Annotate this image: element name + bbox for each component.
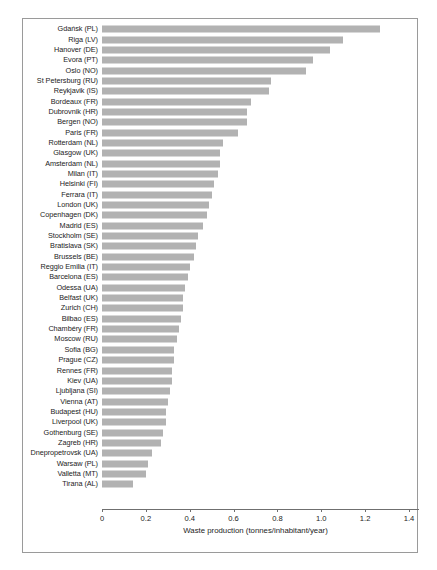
- bar-track: [102, 469, 419, 479]
- bar-row: Evora (PT): [23, 55, 419, 65]
- bar-track: [102, 458, 419, 468]
- category-label: Zagreb (HR): [23, 439, 102, 447]
- category-label: Madrid (ES): [23, 222, 102, 230]
- bar-track: [102, 365, 419, 375]
- bar-row: Dnepropetrovsk (UA): [23, 448, 419, 458]
- bar-track: [102, 76, 419, 86]
- bar-track: [102, 427, 419, 437]
- bar: [102, 46, 330, 53]
- bar: [102, 357, 174, 364]
- x-tick-label: 0.2: [141, 514, 152, 523]
- bar-row: Liverpool (UK): [23, 417, 419, 427]
- bar-track: [102, 200, 419, 210]
- x-tick-label: 0.6: [228, 514, 239, 523]
- category-label: Gdańsk (PL): [23, 25, 102, 33]
- bar: [102, 98, 251, 105]
- x-tick-mark: [277, 509, 278, 512]
- bar: [102, 439, 161, 446]
- figure-container: Gdańsk (PL)Riga (LV)Hanover (DE)Evora (P…: [0, 0, 437, 570]
- bar-row: Zagreb (HR): [23, 438, 419, 448]
- bar-row: Amsterdam (NL): [23, 158, 419, 168]
- bar-track: [102, 45, 419, 55]
- category-label: Tirana (AL): [23, 480, 102, 488]
- bar: [102, 377, 172, 384]
- bar-track: [102, 479, 419, 489]
- category-label: Copenhagen (DK): [23, 211, 102, 219]
- category-label: London (UK): [23, 201, 102, 209]
- category-label: Bergen (NO): [23, 118, 102, 126]
- category-label: Stockholm (SE): [23, 232, 102, 240]
- bar-row: Reggio Emilia (IT): [23, 262, 419, 272]
- bar-row: Belfast (UK): [23, 293, 419, 303]
- x-tick-label: 1.2: [360, 514, 371, 523]
- bar: [102, 336, 177, 343]
- bar-track: [102, 127, 419, 137]
- bar-track: [102, 345, 419, 355]
- bar-row: Hanover (DE): [23, 45, 419, 55]
- x-tick-mark: [365, 509, 366, 512]
- bar: [102, 212, 207, 219]
- x-axis-line: [102, 509, 419, 510]
- category-label: Rotterdam (NL): [23, 139, 102, 147]
- bar: [102, 295, 183, 302]
- bar: [102, 67, 306, 74]
- bar-row: Bordeaux (FR): [23, 96, 419, 106]
- bar: [102, 243, 196, 250]
- x-axis-title: Waste production (tonnes/inhabitant/year…: [102, 526, 409, 535]
- bar-row: Zurich (CH): [23, 303, 419, 313]
- bar-row: Helsinki (FI): [23, 179, 419, 189]
- bar-track: [102, 55, 419, 65]
- bar-track: [102, 417, 419, 427]
- category-label: Bratislava (SK): [23, 242, 102, 250]
- category-label: Oslo (NO): [23, 67, 102, 75]
- bar: [102, 129, 238, 136]
- bar-row: Bratislava (SK): [23, 241, 419, 251]
- bar: [102, 429, 163, 436]
- x-tick-mark: [409, 509, 410, 512]
- bar-row: London (UK): [23, 200, 419, 210]
- category-label: Evora (PT): [23, 56, 102, 64]
- category-label: Ljubljana (SI): [23, 387, 102, 395]
- category-label: Chambéry (FR): [23, 325, 102, 333]
- bar: [102, 284, 185, 291]
- bar-track: [102, 86, 419, 96]
- bar: [102, 150, 220, 157]
- bar: [102, 398, 168, 405]
- category-label: Barcelona (ES): [23, 273, 102, 281]
- category-label: Brussels (BE): [23, 253, 102, 261]
- category-label: Belfast (UK): [23, 294, 102, 302]
- category-label: Dnepropetrovsk (UA): [23, 449, 102, 457]
- bar: [102, 326, 179, 333]
- bar: [102, 346, 174, 353]
- bar: [102, 222, 203, 229]
- bar-row: Bergen (NO): [23, 117, 419, 127]
- bar: [102, 202, 209, 209]
- category-label: Dubrovnik (HR): [23, 108, 102, 116]
- bar-track: [102, 231, 419, 241]
- category-label: Vienna (AT): [23, 398, 102, 406]
- bar: [102, 77, 271, 84]
- category-label: Milan (IT): [23, 170, 102, 178]
- bar: [102, 388, 170, 395]
- bar-track: [102, 241, 419, 251]
- bar-track: [102, 65, 419, 75]
- category-label: Paris (FR): [23, 129, 102, 137]
- category-label: St Petersburg (RU): [23, 77, 102, 85]
- bar: [102, 274, 188, 281]
- bar: [102, 170, 218, 177]
- bar-row: Warsaw (PL): [23, 458, 419, 468]
- bar-track: [102, 24, 419, 34]
- category-label: Helsinki (FI): [23, 180, 102, 188]
- bar: [102, 481, 133, 488]
- bar-row: Reykjavik (IS): [23, 86, 419, 96]
- bar-track: [102, 303, 419, 313]
- bar-track: [102, 107, 419, 117]
- bar-row: Budapest (HU): [23, 407, 419, 417]
- bar-track: [102, 283, 419, 293]
- bar-track: [102, 252, 419, 262]
- bar: [102, 88, 269, 95]
- bar-track: [102, 438, 419, 448]
- category-label: Reggio Emilia (IT): [23, 263, 102, 271]
- bar-row: Madrid (ES): [23, 221, 419, 231]
- x-tick-label: 1.0: [316, 514, 327, 523]
